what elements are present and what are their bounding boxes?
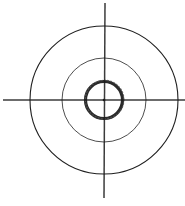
concentric-circles-diagram — [0, 0, 185, 206]
background — [0, 0, 185, 206]
center-dot — [103, 99, 106, 102]
